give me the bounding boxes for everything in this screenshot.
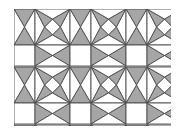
gray-triangle: [91, 125, 109, 134]
white-triangle: [61, 125, 71, 134]
white-square: [14, 103, 35, 124]
gray-triangle-down: [70, 125, 91, 134]
white-triangle: [70, 125, 81, 134]
white-triangle: [147, 125, 181, 134]
white-square: [70, 103, 91, 124]
white-triangle: [173, 67, 182, 103]
white-triangle: [35, 125, 70, 134]
tiling-figure: [0, 0, 181, 134]
gray-triangle-down: [14, 125, 35, 134]
white-triangle: [126, 125, 137, 134]
white-triangle: [91, 125, 101, 134]
white-triangle: [117, 125, 127, 134]
white-triangle: [81, 125, 92, 134]
white-square: [70, 45, 91, 66]
gray-triangle: [109, 125, 127, 134]
gray-triangle-down: [126, 125, 147, 134]
white-triangle: [25, 125, 36, 134]
gray-triangle: [165, 125, 182, 134]
white-triangle: [173, 125, 182, 134]
white-triangle: [14, 125, 25, 134]
gray-triangle: [147, 125, 165, 134]
white-triangle: [173, 9, 182, 45]
gray-triangle: [35, 125, 53, 134]
white-triangle: [147, 125, 157, 134]
white-triangle: [91, 125, 126, 134]
tiling-svg: [0, 0, 181, 134]
white-triangle: [35, 125, 45, 134]
gray-triangle: [53, 125, 71, 134]
white-triangle: [137, 125, 148, 134]
white-square: [126, 45, 147, 66]
white-square: [126, 103, 147, 124]
white-square: [14, 45, 35, 66]
